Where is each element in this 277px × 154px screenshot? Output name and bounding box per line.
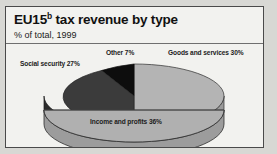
pie-chart-plot: Goods and services 30% Other 7% Social s…: [6, 44, 263, 147]
title-main: EU15: [14, 12, 47, 27]
slice-label-other: Other 7%: [106, 49, 134, 56]
slice-label-goods-and-services: Goods and services 30%: [168, 49, 244, 56]
title-rest: tax revenue by type: [52, 12, 178, 27]
slice-label-social-security: Social security 27%: [20, 60, 80, 67]
slice-label-income-and-profits: Income and profits 36%: [90, 118, 162, 125]
chart-figure: EU15b tax revenue by type % of total, 19…: [5, 6, 264, 148]
chart-subtitle: % of total, 1999: [14, 30, 77, 40]
page-title: EU15b tax revenue by type: [14, 12, 178, 27]
